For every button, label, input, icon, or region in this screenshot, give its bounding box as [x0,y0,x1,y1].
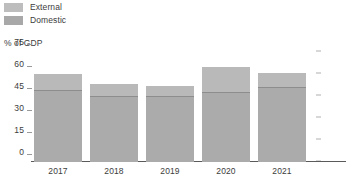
plot-area: 75604530150 [34,52,306,162]
bar-column[interactable] [258,52,306,162]
bar-series-group [34,52,306,162]
bar-segment-domestic[interactable] [202,92,250,162]
y-axis-tick-mark-right [316,139,321,140]
bar-segment-domestic[interactable] [34,90,82,162]
bar-stack [90,84,138,162]
legend-item-external[interactable]: External [4,2,144,13]
bar-stack [34,74,82,162]
y-axis-tick-mark [27,66,32,67]
bar-column[interactable] [90,52,138,162]
y-axis-tick-mark [27,88,32,89]
y-axis-tick: 0 [8,147,34,157]
y-axis-tick-mark-right [316,117,321,118]
y-axis-tick: 75 [8,37,34,47]
y-axis-tick-mark [27,110,32,111]
y-axis-tick-label: 75 [8,37,24,47]
y-axis-tick-label: 30 [8,103,24,113]
x-axis-label: 2021 [258,166,306,176]
bar-column[interactable] [202,52,250,162]
legend-label-domestic: Domestic [30,16,66,25]
bar-segment-external[interactable] [90,84,138,96]
y-axis-tick-mark-right [316,51,321,52]
legend-swatch-domestic [4,16,23,25]
y-axis-tick-label: 15 [8,125,24,135]
y-axis-tick-label: 0 [8,147,24,157]
y-axis-tick: 15 [8,125,34,135]
bar-stack [146,86,194,162]
y-axis-tick: 45 [8,81,34,91]
x-axis-label: 2019 [146,166,194,176]
bar-segment-external[interactable] [34,74,82,90]
y-axis-tick-mark [27,154,32,155]
bar-stack [202,67,250,162]
bar-segment-external[interactable] [258,73,306,88]
bar-stack [258,73,306,162]
y-axis-tick-mark [27,44,32,45]
legend-item-domestic[interactable]: Domestic [4,15,144,26]
bar-column[interactable] [34,52,82,162]
bar-segment-domestic[interactable] [258,87,306,162]
bar-segment-domestic[interactable] [146,96,194,162]
y-axis-tick-mark-right [316,73,321,74]
legend-label-external: External [30,3,62,12]
x-axis-label: 2018 [90,166,138,176]
y-axis-tick-label: 60 [8,59,24,69]
x-axis-labels: 20172018201920202021 [34,166,306,176]
bar-column[interactable] [146,52,194,162]
bar-segment-external[interactable] [146,86,194,96]
y-axis-tick-mark-right [316,95,321,96]
legend-swatch-external [4,3,23,12]
x-axis-label: 2020 [202,166,250,176]
x-axis-label: 2017 [34,166,82,176]
y-axis-tick-label: 45 [8,81,24,91]
y-axis-tick: 30 [8,103,34,113]
bar-segment-domestic[interactable] [90,96,138,162]
bar-segment-external[interactable] [202,67,250,92]
y-axis-tick-mark [27,132,32,133]
y-axis-tick: 60 [8,59,34,69]
chart-legend: External Domestic [4,2,144,28]
